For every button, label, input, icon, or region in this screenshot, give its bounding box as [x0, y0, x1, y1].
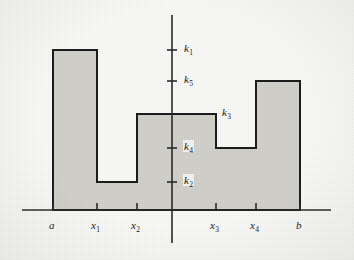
x-axis-label-x2: x2 [131, 219, 140, 231]
x-axis-label-x4: x4 [250, 219, 259, 231]
x-axis-label-x3: x3 [210, 219, 219, 231]
figure-root: k1 k5 k4 k2 k3 a x1 x2 x3 x4 b [0, 0, 354, 260]
x-axis-label-b: b [296, 219, 302, 231]
x-axis-label-a: a [49, 219, 55, 231]
y-axis-label-k5: k5 [183, 73, 194, 85]
step-function-region [53, 50, 300, 210]
y-axis-label-k1: k1 [183, 42, 194, 54]
level-label-k3: k3 [222, 106, 231, 118]
y-axis-label-k4: k4 [183, 140, 194, 152]
x-axis-label-x1: x1 [91, 219, 100, 231]
y-axis-label-k2: k2 [183, 174, 194, 186]
